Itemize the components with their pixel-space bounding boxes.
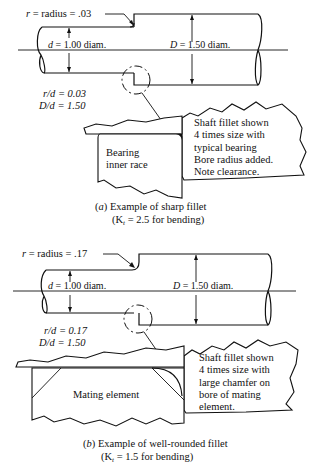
figure-a-small-diameter-label: d = 1.00 diam. bbox=[48, 39, 106, 51]
large-diameter-value: = 1.50 diam. bbox=[177, 39, 230, 50]
kt-prefix: (K bbox=[112, 214, 123, 225]
figure-a-kt-caption: (Kt = 2.5 for bending) bbox=[112, 214, 204, 230]
small-diameter-value: = 1.00 diam. bbox=[53, 280, 106, 291]
figure-a-note: Shaft fillet shown 4 times size with typ… bbox=[194, 117, 273, 178]
figure-b-note: Shaft fillet shown 4 times size with lar… bbox=[199, 352, 274, 413]
note-line: Shaft fillet shown bbox=[199, 352, 274, 364]
figure-a-large-diameter-label: D = 1.50 diam. bbox=[170, 39, 230, 51]
note-line: Shaft fillet shown bbox=[194, 117, 273, 129]
kt-value: = 2.5 for bending) bbox=[125, 214, 204, 225]
figure-b-small-diameter-label: d = 1.00 diam. bbox=[48, 280, 106, 292]
note-line: large chamfer on bbox=[199, 377, 274, 389]
note-line: bore of mating bbox=[199, 389, 274, 401]
figure-b-ratio-rd: r/d = 0.17 bbox=[44, 325, 87, 337]
figure-a-caption: (a) Example of sharp fillet bbox=[95, 201, 206, 214]
figure-b-kt-caption: (Kt = 1.5 for bending) bbox=[101, 451, 193, 467]
radius-value: = radius = .17 bbox=[26, 248, 87, 259]
note-line: 4 times size with bbox=[199, 364, 274, 376]
kt-value: = 1.5 for bending) bbox=[114, 451, 193, 462]
figure-b-caption: (b) Example of well-rounded fillet bbox=[83, 438, 228, 451]
large-diameter-value: = 1.50 diam. bbox=[180, 280, 233, 291]
figure-b-ratio-Dd: D/d = 1.50 bbox=[39, 337, 85, 349]
note-line: 4 times size with bbox=[194, 129, 273, 141]
mating-element-label: Mating element bbox=[73, 389, 139, 401]
caption-title: Example of sharp fillet bbox=[110, 201, 207, 212]
small-diameter-value: = 1.00 diam. bbox=[53, 39, 106, 50]
note-line: typical bearing bbox=[194, 142, 273, 154]
figure-a-ratio-Dd: D/d = 1.50 bbox=[39, 100, 85, 112]
note-line: Bore radius added. bbox=[194, 154, 273, 166]
figure-b-large-diameter-label: D = 1.50 diam. bbox=[173, 280, 233, 292]
element-label-line: inner race bbox=[106, 159, 148, 171]
figure-a-ratio-rd: r/d = 0.03 bbox=[43, 88, 86, 100]
caption-letter: b bbox=[87, 438, 92, 449]
figure-a-radius-label: r = radius = .03 bbox=[26, 8, 91, 20]
note-line: Note clearance. bbox=[194, 166, 273, 178]
kt-prefix: (K bbox=[101, 451, 112, 462]
note-line: element. bbox=[199, 401, 274, 413]
radius-value: = radius = .03 bbox=[30, 8, 91, 19]
caption-letter: a bbox=[99, 201, 104, 212]
figure-b-radius-label: r = radius = .17 bbox=[22, 248, 87, 260]
element-label-line: Bearing bbox=[106, 147, 148, 159]
bearing-inner-race-label: Bearing inner race bbox=[106, 147, 148, 172]
caption-title: Example of well-rounded fillet bbox=[98, 438, 228, 449]
